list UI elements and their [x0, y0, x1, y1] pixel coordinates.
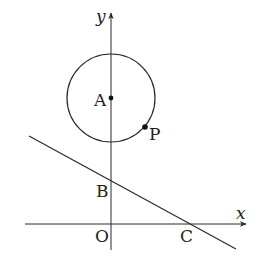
label-b: B: [96, 181, 109, 201]
x-axis-label: x: [236, 203, 246, 223]
point-p: [142, 124, 148, 130]
label-a: A: [93, 90, 107, 110]
coordinate-diagram: y x A P B O C: [0, 0, 270, 279]
label-c: C: [180, 226, 193, 246]
line-bc: [29, 136, 236, 249]
y-axis-label: y: [95, 6, 106, 26]
label-p: P: [149, 124, 160, 144]
point-a: [109, 96, 114, 101]
label-o: O: [95, 226, 109, 246]
